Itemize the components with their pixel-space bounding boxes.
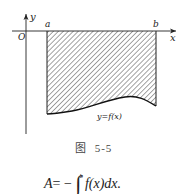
area-formula: A= − ∫bf(x)dx. — [44, 168, 121, 194]
formula-eq: = − — [53, 176, 72, 191]
y-axis-label: y — [30, 11, 36, 22]
a-label: a — [45, 19, 50, 29]
formula-body: f(x)dx. — [85, 176, 121, 191]
caption-number: 5-5 — [95, 142, 113, 154]
formula-lhs: A — [44, 176, 53, 191]
origin-label: O — [18, 32, 25, 42]
x-axis-label: x — [170, 32, 176, 43]
caption-prefix: 图 — [75, 142, 87, 155]
b-label: b — [153, 19, 159, 29]
shaded-region — [47, 31, 156, 114]
figure-caption: 图5-5 — [0, 139, 187, 155]
integral-upper-limit: b — [79, 172, 83, 180]
curve-label: y=f(x) — [97, 112, 122, 121]
